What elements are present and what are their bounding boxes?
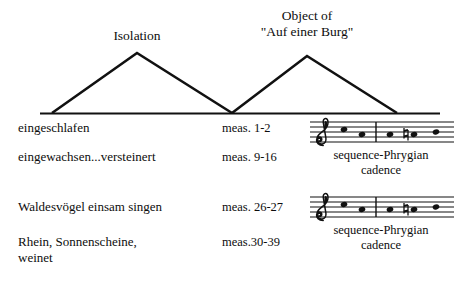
note-head bbox=[432, 129, 440, 136]
diagram-page: Isolation Object of "Auf einer Burg" ein… bbox=[0, 0, 461, 287]
row-measures: meas. 9-16 bbox=[222, 149, 277, 165]
staff-caption-line2: cadence bbox=[306, 163, 456, 178]
row-phrase-line1: eingeschlafen bbox=[18, 120, 89, 135]
arch-label-isolation-line1: Isolation bbox=[77, 28, 197, 44]
natural-accidental-icon bbox=[404, 203, 408, 216]
note-head bbox=[432, 204, 440, 211]
staff-lines bbox=[310, 197, 454, 217]
arch-isolation bbox=[52, 53, 232, 113]
arch-diagram-svg bbox=[0, 0, 461, 120]
staff-caption-line2: cadence bbox=[306, 238, 456, 253]
row-measures: meas. 26-27 bbox=[222, 199, 283, 215]
row-phrase: Rhein, Sonnenscheine, weinet bbox=[18, 234, 137, 266]
row-phrase-line1: Rhein, Sonnenscheine, bbox=[18, 234, 137, 249]
arch-object-auf-einer-burg bbox=[232, 56, 397, 113]
music-staff-lower-svg bbox=[306, 192, 456, 222]
staff-lines bbox=[310, 122, 454, 142]
music-staff-upper-svg bbox=[306, 117, 456, 147]
row-phrase-line1: eingewachsen...versteinert bbox=[18, 149, 156, 164]
row-measures: meas.30-39 bbox=[222, 234, 280, 250]
arch-diagram: Isolation Object of "Auf einer Burg" bbox=[0, 0, 461, 120]
arch-label-object-line2: "Auf einer Burg" bbox=[237, 24, 377, 40]
music-staff-lower: sequence-Phrygian cadence bbox=[306, 192, 456, 252]
arch-label-object: Object of "Auf einer Burg" bbox=[237, 8, 377, 39]
music-staff-upper: sequence-Phrygian cadence bbox=[306, 117, 456, 177]
staff-caption-line1: sequence-Phrygian bbox=[306, 148, 456, 163]
staff-caption: sequence-Phrygian cadence bbox=[306, 148, 456, 177]
arch-label-isolation: Isolation bbox=[77, 28, 197, 44]
row-phrase: Waldesvögel einsam singen bbox=[18, 199, 162, 215]
natural-accidental-icon bbox=[404, 128, 408, 141]
row-phrase: eingewachsen...versteinert bbox=[18, 149, 156, 165]
row-phrase-line2: weinet bbox=[18, 250, 137, 266]
staff-caption-line1: sequence-Phrygian bbox=[306, 223, 456, 238]
row-phrase-line1: Waldesvögel einsam singen bbox=[18, 199, 162, 214]
staff-caption: sequence-Phrygian cadence bbox=[306, 223, 456, 252]
row-measures: meas. 1-2 bbox=[222, 120, 271, 136]
row-phrase: eingeschlafen bbox=[18, 120, 89, 136]
arch-label-object-line1: Object of bbox=[237, 8, 377, 24]
